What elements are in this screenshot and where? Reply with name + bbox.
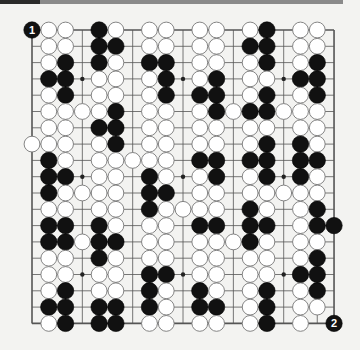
black-stone[interactable] xyxy=(192,217,208,233)
black-stone[interactable] xyxy=(41,217,57,233)
white-stone[interactable] xyxy=(209,22,225,38)
black-stone[interactable] xyxy=(108,136,124,152)
white-stone[interactable] xyxy=(108,55,124,71)
black-stone[interactable] xyxy=(91,22,107,38)
white-stone[interactable] xyxy=(209,267,225,283)
black-stone[interactable] xyxy=(292,266,308,282)
white-stone[interactable] xyxy=(192,71,208,87)
black-stone[interactable] xyxy=(41,71,57,87)
white-stone[interactable] xyxy=(242,71,258,87)
black-stone[interactable] xyxy=(259,22,275,38)
white-stone[interactable] xyxy=(259,234,275,250)
black-stone[interactable] xyxy=(141,299,157,315)
white-stone[interactable] xyxy=(192,234,208,250)
black-stone[interactable] xyxy=(57,217,73,233)
black-stone[interactable] xyxy=(242,152,258,168)
white-stone[interactable] xyxy=(41,136,57,152)
white-stone[interactable] xyxy=(259,201,275,217)
white-stone[interactable] xyxy=(41,316,57,332)
black-stone[interactable] xyxy=(259,103,275,119)
black-stone[interactable] xyxy=(108,299,124,315)
white-stone[interactable] xyxy=(142,87,158,103)
white-stone[interactable] xyxy=(91,283,107,299)
white-stone[interactable] xyxy=(209,201,225,217)
black-stone[interactable] xyxy=(41,152,57,168)
black-stone[interactable] xyxy=(259,87,275,103)
white-stone[interactable] xyxy=(125,153,141,169)
white-stone[interactable] xyxy=(225,234,241,250)
white-stone[interactable] xyxy=(192,250,208,266)
white-stone[interactable] xyxy=(293,38,309,54)
black-stone[interactable] xyxy=(208,217,224,233)
white-stone[interactable] xyxy=(41,55,57,71)
white-stone[interactable] xyxy=(276,104,292,120)
black-stone[interactable] xyxy=(292,71,308,87)
white-stone[interactable] xyxy=(309,234,325,250)
white-stone[interactable] xyxy=(259,120,275,136)
white-stone[interactable] xyxy=(242,87,258,103)
white-stone[interactable] xyxy=(41,283,57,299)
black-stone[interactable] xyxy=(158,87,174,103)
black-stone[interactable] xyxy=(108,234,124,250)
white-stone[interactable] xyxy=(91,267,107,283)
white-stone[interactable] xyxy=(108,153,124,169)
white-stone[interactable] xyxy=(192,267,208,283)
white-stone[interactable] xyxy=(309,136,325,152)
white-stone[interactable] xyxy=(209,250,225,266)
white-stone[interactable] xyxy=(158,234,174,250)
white-stone[interactable] xyxy=(91,136,107,152)
white-stone[interactable] xyxy=(209,234,225,250)
black-stone[interactable] xyxy=(309,152,325,168)
black-stone[interactable] xyxy=(309,54,325,70)
black-stone[interactable] xyxy=(309,87,325,103)
white-stone[interactable] xyxy=(309,22,325,38)
white-stone[interactable] xyxy=(209,120,225,136)
black-stone[interactable] xyxy=(158,266,174,282)
white-stone[interactable] xyxy=(58,267,74,283)
white-stone[interactable] xyxy=(142,104,158,120)
white-stone[interactable] xyxy=(192,22,208,38)
white-stone[interactable] xyxy=(225,104,241,120)
black-stone[interactable] xyxy=(309,217,325,233)
white-stone[interactable] xyxy=(41,22,57,38)
black-stone[interactable] xyxy=(57,315,73,331)
white-stone[interactable] xyxy=(293,250,309,266)
white-stone[interactable] xyxy=(242,267,258,283)
white-stone[interactable] xyxy=(158,316,174,332)
white-stone[interactable] xyxy=(309,299,325,315)
black-stone[interactable] xyxy=(292,169,308,185)
black-stone[interactable] xyxy=(41,185,57,201)
white-stone[interactable] xyxy=(108,22,124,38)
white-stone[interactable] xyxy=(242,283,258,299)
white-stone[interactable] xyxy=(108,218,124,234)
black-stone[interactable] xyxy=(309,71,325,87)
white-stone[interactable] xyxy=(91,185,107,201)
white-stone[interactable] xyxy=(91,201,107,217)
white-stone[interactable] xyxy=(293,87,309,103)
black-stone[interactable] xyxy=(208,152,224,168)
white-stone[interactable] xyxy=(91,153,107,169)
black-stone[interactable] xyxy=(57,234,73,250)
black-stone[interactable] xyxy=(141,54,157,70)
black-stone[interactable] xyxy=(208,87,224,103)
white-stone[interactable] xyxy=(142,22,158,38)
black-stone[interactable] xyxy=(91,38,107,54)
black-stone[interactable] xyxy=(141,201,157,217)
white-stone[interactable] xyxy=(41,104,57,120)
black-stone[interactable] xyxy=(108,315,124,331)
white-stone[interactable] xyxy=(142,234,158,250)
white-stone[interactable] xyxy=(309,120,325,136)
white-stone[interactable] xyxy=(41,201,57,217)
white-stone[interactable] xyxy=(74,185,90,201)
white-stone[interactable] xyxy=(91,71,107,87)
black-stone[interactable] xyxy=(91,315,107,331)
white-stone[interactable] xyxy=(158,136,174,152)
white-stone[interactable] xyxy=(293,55,309,71)
black-stone[interactable] xyxy=(91,54,107,70)
white-stone[interactable] xyxy=(293,283,309,299)
black-stone[interactable] xyxy=(158,71,174,87)
white-stone[interactable] xyxy=(209,136,225,152)
white-stone[interactable] xyxy=(108,267,124,283)
black-stone[interactable] xyxy=(91,299,107,315)
white-stone[interactable] xyxy=(142,120,158,136)
